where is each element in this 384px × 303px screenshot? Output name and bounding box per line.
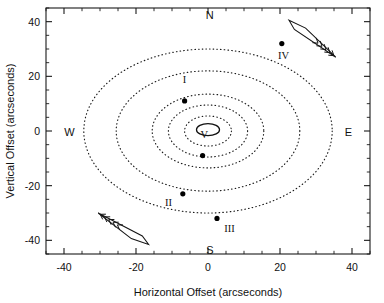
data-point-I: I xyxy=(182,74,187,103)
marker-dot-IV xyxy=(279,41,284,46)
marker-label-I: I xyxy=(183,74,187,85)
x-tick-label: -40 xyxy=(56,261,71,273)
arrow-head xyxy=(289,20,336,57)
marker-label-IV: IV xyxy=(278,50,289,61)
data-point-II: II xyxy=(165,191,186,208)
axis-frame-group: -40-2002040-40-2002040 xyxy=(25,8,370,273)
arrows-group xyxy=(98,20,336,244)
arrow-head xyxy=(98,213,148,244)
marker-dot-II xyxy=(180,191,185,196)
data-point-III: III xyxy=(214,216,235,234)
x-tick-label: -20 xyxy=(128,261,143,273)
lower-right-arrow xyxy=(289,20,336,57)
y-tick-label: 40 xyxy=(28,16,40,28)
x-axis-title: Horizontal Offset (arcseconds) xyxy=(134,286,282,298)
scatter-plot: IIIIIIIVV SNWE -40-2002040-40-2002040 Ho… xyxy=(0,0,384,303)
x-tick-label: 40 xyxy=(346,261,358,273)
compass-label-W: W xyxy=(64,126,75,138)
compass-label-E: E xyxy=(345,126,352,138)
compass-label-N: N xyxy=(206,9,214,21)
data-markers-group: IIIIIIIVV xyxy=(165,41,290,234)
data-point-V: V xyxy=(200,129,209,158)
y-tick-label: -40 xyxy=(25,234,40,246)
marker-label-III: III xyxy=(224,223,235,234)
upper-left-arrow xyxy=(98,213,148,244)
y-axis-title: Vertical Offset (arcseconds) xyxy=(4,64,16,199)
x-tick-label: 20 xyxy=(274,261,286,273)
marker-dot-I xyxy=(182,98,187,103)
y-tick-label: 20 xyxy=(28,70,40,82)
marker-dot-V xyxy=(200,153,205,158)
figure-container: IIIIIIIVV SNWE -40-2002040-40-2002040 Ho… xyxy=(0,0,384,303)
x-tick-label: 0 xyxy=(205,261,211,273)
marker-label-V: V xyxy=(201,129,209,140)
marker-dot-III xyxy=(214,216,219,221)
marker-label-II: II xyxy=(165,197,172,208)
y-tick-label: 0 xyxy=(34,125,40,137)
y-tick-label: -20 xyxy=(25,180,40,192)
data-point-IV: IV xyxy=(278,41,289,61)
